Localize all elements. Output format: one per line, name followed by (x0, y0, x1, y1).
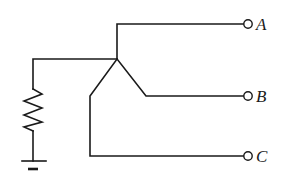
ground-icon (22, 161, 46, 169)
circuit-diagram: A B C (0, 0, 289, 182)
terminal-a-label: A (255, 15, 267, 34)
terminal-c-label: C (256, 147, 268, 166)
terminal-b-label: B (256, 87, 267, 106)
wire-to-c (90, 59, 244, 156)
wire-to-resistor (33, 59, 117, 89)
terminal-c-icon (244, 152, 252, 160)
terminal-a-icon (244, 20, 252, 28)
resistor-icon (24, 89, 42, 131)
wire-to-b (117, 59, 244, 96)
wire-to-a (117, 24, 244, 59)
circuit-svg: A B C (0, 0, 289, 182)
terminal-b-icon (244, 92, 252, 100)
